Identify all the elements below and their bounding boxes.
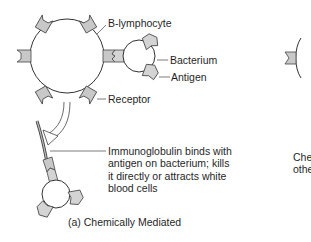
description-line: antigen on bacterium; kills <box>108 157 232 169</box>
immune-diagram <box>0 0 311 242</box>
curved-arrow-icon <box>43 102 70 145</box>
panel-b-partial <box>285 38 301 78</box>
immunoglobulin-description: Immunoglobulin binds with antigen on bac… <box>108 145 232 194</box>
bound-bacterium <box>34 180 84 219</box>
b-lymphocyte-cell <box>17 15 104 104</box>
label-b-lymphocyte: B-lymphocyte <box>108 17 172 29</box>
panel-a-caption: (a) Chemically Mediated <box>68 216 181 228</box>
description-line: blood cells <box>108 182 232 194</box>
description-line: Immunoglobulin binds with <box>108 145 232 157</box>
label-bacterium: Bacterium <box>170 54 217 66</box>
leader-b-lymphocyte <box>97 25 106 34</box>
panel-b-line: Che <box>293 151 311 163</box>
label-receptor: Receptor <box>108 93 151 105</box>
receptor-left <box>17 50 31 62</box>
immunoglobulin <box>37 121 58 184</box>
bound-receptor <box>103 50 124 62</box>
label-antigen: Antigen <box>171 71 207 83</box>
description-line: it directly or attracts white <box>108 170 232 182</box>
bacterium-cell <box>123 32 160 81</box>
panel-b-line: othe <box>293 163 311 175</box>
panel-b-partial-text: Che othe <box>293 151 311 176</box>
